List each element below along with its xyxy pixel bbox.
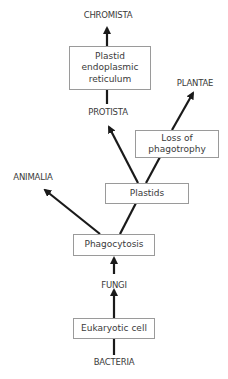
event-phagocytosis: Phagocytosis [73,234,155,256]
taxon-plantae: PLANTAE [170,78,220,88]
event-plastid-er: Plastid endoplasmic reticulum [69,46,151,90]
taxon-bacteria: BACTERIA [84,357,144,367]
event-eukaryotic-cell: Eukaryotic cell [73,318,155,339]
taxon-protista: PROTISTA [80,107,136,117]
event-label: phagotrophy [148,144,205,155]
event-label: endoplasmic [81,62,138,73]
taxon-animalia: ANIMALIA [8,172,58,182]
event-plastids: Plastids [105,183,189,204]
event-label: Loss of [161,133,192,144]
taxon-chromista: CHROMISTA [78,10,138,20]
taxon-fungi: FUNGI [94,280,134,290]
event-loss-of-phagotrophy: Loss of phagotrophy [135,130,219,158]
event-label: reticulum [89,74,132,85]
event-label: Plastid [95,51,125,62]
